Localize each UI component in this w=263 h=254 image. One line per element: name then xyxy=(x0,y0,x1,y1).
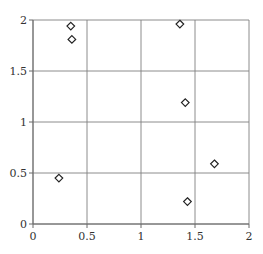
grid-lines xyxy=(33,20,249,224)
y-tick-label: 1 xyxy=(20,116,27,129)
y-tick-label: 0 xyxy=(20,218,27,231)
diamond-marker-icon xyxy=(176,20,184,28)
data-points xyxy=(55,20,218,205)
scatter-chart: 00.511.52 00.511.52 xyxy=(0,0,263,254)
x-tick-label: 2 xyxy=(246,230,253,243)
x-axis-tick-labels: 00.511.52 xyxy=(30,230,253,243)
diamond-marker-icon xyxy=(211,160,219,168)
diamond-marker-icon xyxy=(55,174,63,182)
diamond-marker-icon xyxy=(184,198,192,206)
y-tick-label: 0.5 xyxy=(10,167,28,180)
x-tick-label: 1 xyxy=(138,230,145,243)
diamond-marker-icon xyxy=(68,36,76,44)
diamond-marker-icon xyxy=(181,99,189,107)
x-tick-label: 0.5 xyxy=(78,230,96,243)
x-tick-label: 1.5 xyxy=(186,230,204,243)
y-tick-label: 1.5 xyxy=(10,65,28,78)
y-tick-label: 2 xyxy=(20,14,27,27)
diamond-marker-icon xyxy=(67,22,75,30)
y-axis-tick-labels: 00.511.52 xyxy=(10,14,28,231)
x-tick-label: 0 xyxy=(30,230,37,243)
axes xyxy=(29,20,249,228)
